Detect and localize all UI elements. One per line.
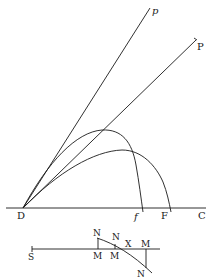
- label-M-2: M: [110, 251, 119, 261]
- label-N-2: N: [112, 232, 120, 242]
- label-f: f: [133, 211, 140, 222]
- label-N-3: N: [137, 269, 145, 279]
- label-X: X: [125, 239, 132, 249]
- label-D: D: [17, 210, 25, 221]
- label-N-1: N: [93, 228, 101, 238]
- trajectory-diagram: p P D f F C S N N X M M M N: [0, 0, 214, 280]
- tick-P: [194, 38, 197, 40]
- label-C: C: [198, 210, 206, 221]
- label-P: P: [197, 41, 204, 52]
- label-S: S: [28, 252, 34, 262]
- label-F: F: [161, 210, 168, 221]
- line-DP: [23, 40, 196, 208]
- label-M-1: M: [93, 251, 102, 261]
- label-M-3: M: [141, 239, 150, 249]
- label-p: p: [152, 5, 159, 16]
- upper-figure: p P D f F C: [6, 5, 206, 222]
- line-Dp: [23, 8, 150, 208]
- lower-figure: S N N X M M M N: [28, 228, 160, 279]
- curve-D-to-f: [23, 130, 143, 212]
- curve-D-to-F: [23, 150, 171, 212]
